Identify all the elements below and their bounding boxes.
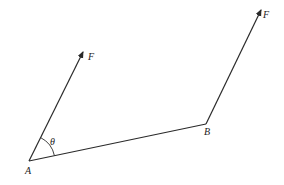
point-label-b: B [204, 127, 210, 137]
segment-ab [29, 124, 206, 161]
force-arrow-a [29, 52, 83, 161]
force-diagram [0, 0, 284, 185]
diagram-canvas: F θ A B F [0, 0, 284, 185]
angle-label-theta: θ [50, 137, 55, 147]
force-label-a: F [88, 52, 94, 62]
point-label-a: A [25, 166, 31, 176]
force-label-b: F [263, 10, 269, 20]
force-arrow-b [206, 10, 261, 124]
